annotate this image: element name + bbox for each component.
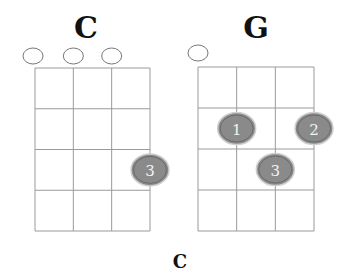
finger-number: 3 [145, 162, 155, 180]
caption: C [173, 251, 187, 271]
fretboard-grid [198, 67, 314, 231]
finger-number: 2 [309, 121, 319, 139]
finger-dot: 3 [256, 154, 294, 186]
chord-diagram-g: G123 [188, 10, 333, 231]
chord-name: C [74, 10, 98, 45]
open-string-marker [188, 45, 208, 61]
chord-name: G [243, 10, 269, 45]
chord-diagrams: C3 G123 C [0, 0, 355, 271]
open-string-marker [23, 48, 43, 64]
finger-dot: 3 [131, 154, 169, 186]
finger-number: 3 [271, 162, 281, 180]
finger-dot: 1 [218, 113, 256, 145]
open-string-marker [102, 48, 122, 64]
open-string-marker [63, 48, 83, 64]
chord-diagram-c: C3 [23, 10, 169, 231]
finger-dot: 2 [295, 113, 333, 145]
fretboard-grid [35, 68, 150, 231]
finger-number: 1 [232, 121, 242, 139]
